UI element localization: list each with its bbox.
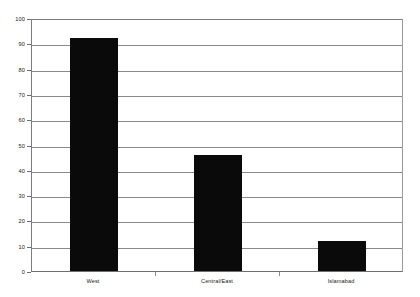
y-axis-tick-mark (27, 272, 31, 273)
bar (70, 38, 118, 271)
x-axis-category-label: Islamabad (279, 278, 403, 285)
x-axis-tick-mark (155, 272, 156, 276)
bar (194, 155, 242, 271)
y-axis-tick-label: 10 (1, 244, 25, 250)
y-axis-tick-label: 70 (1, 92, 25, 98)
x-axis-category-label: West (31, 278, 155, 285)
plot-area (31, 19, 403, 272)
y-axis-tick-label: 100 (1, 16, 25, 22)
x-axis-category-label: Central/East (155, 278, 279, 285)
y-axis-tick-label: 50 (1, 143, 25, 149)
y-axis-tick-label: 40 (1, 168, 25, 174)
x-axis-tick-mark (279, 272, 280, 276)
y-axis-tick-label: 20 (1, 218, 25, 224)
y-axis-tick-label: 80 (1, 67, 25, 73)
bar (318, 241, 366, 271)
y-axis-tick-label: 60 (1, 117, 25, 123)
y-axis-tick-label: 0 (1, 269, 25, 275)
bar-chart-figure: 1009080706050403020100 WestCentral/EastI… (0, 0, 420, 297)
y-axis-tick-label: 30 (1, 193, 25, 199)
y-axis-tick-label: 90 (1, 41, 25, 47)
